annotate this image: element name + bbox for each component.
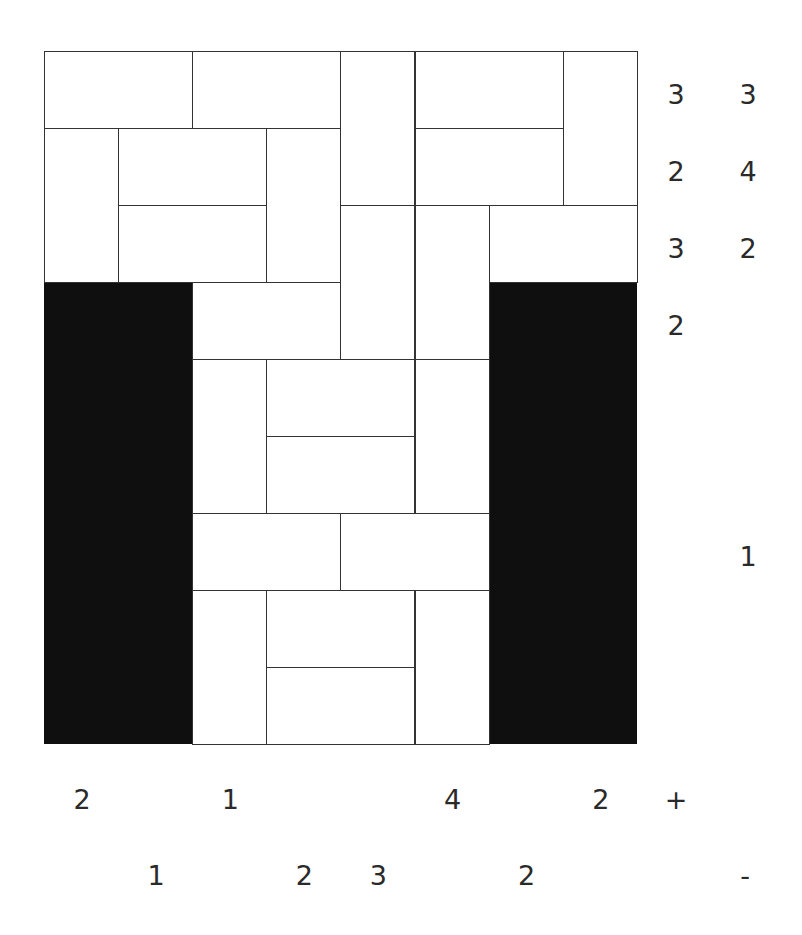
row-minus-clue: 3	[728, 80, 768, 110]
row-plus-clue: 2	[656, 157, 696, 187]
puzzle-board	[44, 51, 637, 744]
domino-vertical[interactable]	[192, 590, 267, 745]
left-blocked-region	[44, 282, 192, 744]
row-plus-clue: 3	[656, 80, 696, 110]
col-minus-clue: 2	[507, 861, 547, 891]
domino-horizontal[interactable]	[266, 359, 415, 437]
col-minus-clue: 1	[136, 861, 176, 891]
row-minus-clue: 1	[728, 542, 768, 572]
domino-horizontal[interactable]	[192, 282, 341, 360]
domino-horizontal[interactable]	[118, 205, 267, 283]
domino-horizontal[interactable]	[192, 51, 341, 129]
domino-horizontal[interactable]	[489, 205, 638, 283]
domino-horizontal[interactable]	[266, 436, 415, 514]
col-plus-clue: 4	[433, 785, 473, 815]
row-minus-clue: 4	[728, 157, 768, 187]
domino-horizontal[interactable]	[44, 51, 193, 129]
domino-vertical[interactable]	[415, 205, 490, 360]
col-minus-clue: 3	[358, 861, 398, 891]
domino-horizontal[interactable]	[192, 513, 341, 591]
plus-sign-label: +	[656, 785, 696, 815]
domino-horizontal[interactable]	[415, 128, 564, 206]
domino-vertical[interactable]	[266, 128, 341, 283]
row-plus-clue: 2	[656, 311, 696, 341]
domino-vertical[interactable]	[563, 51, 638, 206]
row-minus-clue: 2	[728, 234, 768, 264]
domino-vertical[interactable]	[192, 359, 267, 514]
domino-vertical[interactable]	[415, 590, 490, 745]
domino-horizontal[interactable]	[118, 128, 267, 206]
domino-vertical[interactable]	[340, 205, 415, 360]
domino-horizontal[interactable]	[340, 513, 489, 591]
col-plus-clue: 2	[62, 785, 102, 815]
domino-horizontal[interactable]	[266, 590, 415, 668]
row-plus-clue: 3	[656, 234, 696, 264]
minus-sign-label: -	[725, 861, 765, 891]
domino-vertical[interactable]	[44, 128, 119, 283]
domino-vertical[interactable]	[415, 359, 490, 514]
domino-vertical[interactable]	[340, 51, 415, 206]
domino-horizontal[interactable]	[415, 51, 564, 129]
col-minus-clue: 2	[284, 861, 324, 891]
col-plus-clue: 1	[210, 785, 250, 815]
right-blocked-region	[489, 282, 637, 744]
col-plus-clue: 2	[581, 785, 621, 815]
domino-horizontal[interactable]	[266, 667, 415, 745]
